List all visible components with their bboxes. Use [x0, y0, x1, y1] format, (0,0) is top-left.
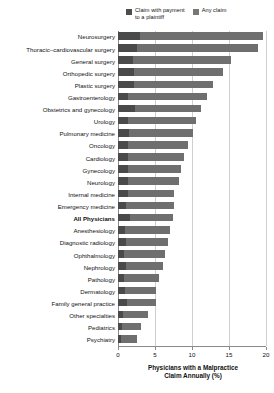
x-tick-mark-15 [229, 347, 230, 350]
x-tick-label-5: 5 [153, 351, 156, 359]
y-axis-label: Oncology [0, 142, 115, 149]
bar-row [118, 225, 266, 237]
x-tick-label-15: 15 [226, 351, 233, 359]
bar-row [118, 310, 266, 322]
bar-any-claim [118, 141, 188, 149]
bar-any-claim [118, 93, 207, 101]
y-axis-label: Family general practice [0, 300, 115, 307]
y-axis-label: Anesthesiology [0, 227, 115, 234]
bar-claim-with-payment [118, 153, 128, 161]
bar-claim-with-payment [118, 262, 126, 270]
y-axis-label: Pulmonary medicine [0, 130, 115, 137]
bar-claim-with-payment [118, 214, 130, 222]
y-axis-label: Plastic surgery [0, 82, 115, 89]
bar-any-claim [118, 274, 159, 282]
bar-claim-with-payment [118, 274, 124, 282]
bar-claim-with-payment [118, 190, 128, 198]
x-tick-label-10: 10 [189, 351, 196, 359]
y-axis-label: Neurosurgery [0, 33, 115, 40]
y-axis-label: Urology [0, 118, 115, 125]
x-tick-mark-10 [192, 347, 193, 350]
plot-area: 05101520 [118, 31, 266, 346]
y-axis-label: Orthopedic surgery [0, 70, 115, 77]
bar-row [118, 285, 266, 297]
bar-claim-with-payment [118, 117, 128, 125]
bar-row [118, 273, 266, 285]
y-axis-label: Diagnostic radiology [0, 239, 115, 246]
bar-claim-with-payment [118, 56, 133, 64]
bar-claim-with-payment [118, 32, 140, 40]
y-axis-label: Emergency medicine [0, 203, 115, 210]
bar-row [118, 164, 266, 176]
bar-claim-with-payment [118, 141, 128, 149]
bar-row [118, 261, 266, 273]
bar-row [118, 79, 266, 91]
y-axis-label: Dermatology [0, 288, 115, 295]
bar-claim-with-payment [118, 129, 129, 137]
bar-row [118, 92, 266, 104]
bar-row [118, 43, 266, 55]
bar-claim-with-payment [118, 250, 124, 258]
bar-row [118, 249, 266, 261]
y-axis-label: Obstetrics and gynecology [0, 106, 115, 113]
bar-row [118, 189, 266, 201]
bar-row [118, 237, 266, 249]
y-axis-label: Gastroenterology [0, 94, 115, 101]
y-axis-label: Pediatrics [0, 324, 115, 331]
y-axis-label: Other specialties [0, 312, 115, 319]
y-axis-label: Internal medicine [0, 191, 115, 198]
y-axis-label: Gynecology [0, 167, 115, 174]
y-axis-label: Neurology [0, 179, 115, 186]
y-axis-label: Cardiology [0, 155, 115, 162]
bar-any-claim [118, 226, 170, 234]
bar-row [118, 67, 266, 79]
bar-claim-with-payment [118, 177, 128, 185]
bar-row [118, 176, 266, 188]
y-axis-label: Ophthalmology [0, 252, 115, 259]
legend-item-claim-with-payment: Claim with payment to a plaintiff [126, 7, 185, 21]
bar-claim-with-payment [118, 68, 134, 76]
bar-row [118, 116, 266, 128]
bar-claim-with-payment [118, 323, 122, 331]
y-axis-label: Psychiatry [0, 336, 115, 343]
bar-row [118, 201, 266, 213]
y-axis-label: Thoracic–cardiovascular surgery [0, 46, 115, 53]
bar-row [118, 213, 266, 225]
legend-label-claim-with-payment: Claim with payment to a plaintiff [135, 7, 185, 21]
y-axis-label: Pathology [0, 276, 115, 283]
bar-claim-with-payment [118, 238, 126, 246]
bar-row [118, 322, 266, 334]
y-axis-label: All Physicians [0, 215, 115, 222]
x-tick-mark-20 [266, 347, 267, 350]
bar-any-claim [118, 56, 231, 64]
bar-claim-with-payment [118, 202, 126, 210]
y-axis-label: Nephrology [0, 264, 115, 271]
bar-any-claim [118, 68, 223, 76]
x-axis-title: Physicians with a Malpractice Claim Annu… [118, 364, 268, 381]
legend-label-any-claim: Any claim [202, 7, 227, 14]
bar-any-claim [118, 250, 165, 258]
bar-row [118, 152, 266, 164]
bar-claim-with-payment [118, 311, 123, 319]
x-tick-label-20: 20 [263, 351, 270, 359]
bar-claim-with-payment [118, 81, 134, 89]
y-axis-category-labels: NeurosurgeryThoracic–cardiovascular surg… [0, 31, 115, 346]
bar-row [118, 298, 266, 310]
x-tick-mark-0 [118, 347, 119, 350]
x-tick-mark-5 [155, 347, 156, 350]
legend-swatch-any-claim [193, 9, 199, 15]
bar-claim-with-payment [118, 165, 128, 173]
bar-any-claim [118, 117, 196, 125]
legend-swatch-claim-with-payment [126, 9, 132, 15]
bar-claim-with-payment [118, 299, 127, 307]
gridline-20 [266, 31, 267, 346]
bar-claim-with-payment [118, 226, 125, 234]
y-axis-label: General surgery [0, 58, 115, 65]
bar-any-claim [118, 202, 174, 210]
bar-any-claim [118, 129, 193, 137]
bar-row [118, 334, 266, 346]
bar-claim-with-payment [118, 93, 128, 101]
bar-claim-with-payment [118, 105, 135, 113]
bar-row [118, 140, 266, 152]
bar-claim-with-payment [118, 287, 125, 295]
